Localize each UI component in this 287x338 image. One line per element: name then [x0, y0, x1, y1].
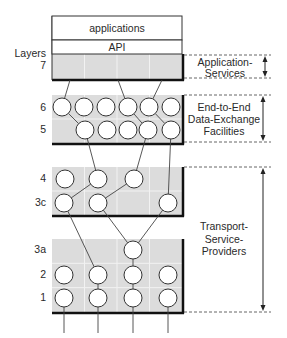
protocol-node-n5b — [98, 121, 116, 139]
bracket-transport-service-providers: Transport-Service-Providers — [184, 167, 271, 312]
arrow-down-icon — [261, 305, 266, 311]
layers-header: Layers — [14, 47, 46, 59]
protocol-node-n6c — [97, 98, 115, 116]
bracket-application-services: Application-Services — [184, 55, 271, 79]
protocol-node-n3ca — [55, 194, 73, 212]
arrow-up-icon — [261, 168, 266, 174]
layer-label-3a: 3a — [34, 243, 46, 255]
protocol-node-n3cc — [159, 194, 177, 212]
layer-label-5: 5 — [40, 123, 46, 135]
protocol-node-n3cb — [89, 194, 107, 212]
bracket-label-line: Services — [205, 67, 245, 79]
protocol-node-n4a — [56, 170, 74, 188]
protocol-node-n2d — [159, 266, 177, 284]
protocol-node-n6b — [75, 98, 93, 116]
bracket-label-line: Data-Exchange — [188, 113, 261, 125]
osi-layer-diagram: applications API Layers 76543c3a21 Appli… — [0, 0, 287, 338]
protocol-node-n6d — [119, 98, 137, 116]
api-label: API — [109, 41, 126, 53]
bracket-label-line: End-to-End — [197, 101, 250, 113]
layer-label-7: 7 — [40, 59, 46, 71]
layer-label-2: 2 — [40, 268, 46, 280]
applications-label: applications — [89, 22, 144, 34]
protocol-node-n6e — [140, 98, 158, 116]
protocol-node-n4c — [125, 170, 143, 188]
layer-label-6: 6 — [40, 101, 46, 113]
layer-label-1: 1 — [40, 291, 46, 303]
arrow-up-icon — [263, 56, 268, 62]
protocol-node-n1d — [159, 289, 177, 307]
protocol-node-n5a — [76, 121, 94, 139]
protocol-node-n5c — [119, 121, 137, 139]
layer-block-layer7 — [52, 54, 184, 81]
layer-labels: Layers 76543c3a21 — [14, 47, 46, 303]
protocol-node-n1b — [89, 289, 107, 307]
protocol-node-n5e — [162, 121, 180, 139]
protocol-node-n1a — [55, 289, 73, 307]
protocol-node-n2b — [89, 266, 107, 284]
bracket-label-line: Service- — [205, 233, 244, 245]
arrow-up-icon — [261, 96, 266, 102]
protocol-node-n3a — [124, 241, 142, 259]
arrow-down-icon — [263, 71, 268, 77]
service-brackets: Application-ServicesEnd-to-EndData-Excha… — [184, 55, 271, 312]
arrow-down-icon — [261, 135, 266, 141]
protocol-node-n5d — [139, 121, 157, 139]
protocol-node-n2c — [124, 266, 142, 284]
protocol-node-n1c — [124, 289, 142, 307]
top-box: applications API — [52, 16, 182, 54]
protocol-node-n2a — [55, 266, 73, 284]
bracket-label-line: Providers — [202, 245, 246, 257]
layer-label-3c: 3c — [35, 196, 46, 208]
layer-label-4: 4 — [40, 172, 46, 184]
protocol-node-n4b — [89, 170, 107, 188]
protocol-node-n6a — [53, 98, 71, 116]
bracket-end-to-end-data-exchange: End-to-EndData-ExchangeFacilities — [184, 95, 271, 142]
bracket-label-line: Facilities — [204, 125, 245, 137]
bracket-label-line: Transport- — [200, 220, 249, 232]
protocol-node-n6f — [162, 98, 180, 116]
